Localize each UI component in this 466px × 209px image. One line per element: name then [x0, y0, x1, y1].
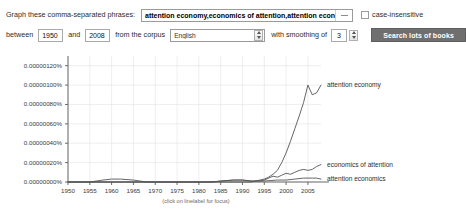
and-label: and [68, 31, 80, 38]
case-insensitive-checkbox[interactable] [361, 11, 369, 19]
series-label[interactable]: attention economy [327, 81, 382, 89]
series-line[interactable] [68, 85, 321, 182]
smoothing-label: with smoothing of [271, 31, 327, 38]
x-axis-tick-label[interactable]: 1990 [236, 187, 250, 194]
y-axis-tick-label: 0.00000040% [24, 139, 63, 146]
x-axis-tick-labels[interactable]: 1950195519601965197019751980198519901995… [61, 187, 315, 194]
corpus-selected-value: English [171, 32, 254, 39]
x-axis-tick-label[interactable]: 1975 [170, 187, 184, 194]
year-start-input[interactable]: 1950 [38, 29, 63, 42]
x-axis-tick-label[interactable]: 1970 [148, 187, 162, 194]
between-label: between [6, 31, 33, 38]
corpus-label: from the corpus [115, 31, 165, 38]
y-axis-tick-label: 0.00000060% [24, 120, 63, 127]
ngram-chart: 0.00000000%0.00000020%0.00000040%0.00000… [0, 48, 409, 209]
y-axis-tick-label: 0.00000080% [24, 100, 63, 107]
chart-series-labels[interactable]: attention economyeconomics of attentiona… [327, 81, 393, 182]
case-insensitive-label: case-insensitive [372, 11, 423, 18]
chart-footnote: (click on linelabel for focus) [162, 198, 230, 204]
ngram-query-form: Graph these comma-separated phrases: att… [0, 0, 409, 48]
y-axis-tick-label: 0.00000020% [24, 159, 63, 166]
smoothing-input[interactable]: 3 [331, 29, 347, 42]
x-axis-tick-label[interactable]: 2005 [301, 187, 315, 194]
chevron-down-icon[interactable] [335, 10, 352, 21]
phrases-label: Graph these comma-separated phrases: [6, 11, 135, 18]
y-axis-tick-label: 0.00000120% [24, 62, 63, 69]
phrases-row: Graph these comma-separated phrases: att… [6, 7, 423, 23]
x-axis-tick-label[interactable]: 1980 [192, 187, 206, 194]
series-label[interactable]: attention economics [327, 175, 386, 182]
chart-series-lines[interactable] [68, 85, 321, 182]
chart-svg[interactable]: 0.00000000%0.00000020%0.00000040%0.00000… [0, 48, 409, 209]
chart-gridlines [68, 56, 321, 182]
options-row: between 1950 and 2008 from the corpus En… [6, 27, 466, 43]
x-axis-tick-label[interactable]: 1950 [61, 187, 75, 194]
x-axis-tick-label[interactable]: 1965 [127, 187, 141, 194]
x-axis-tick-label[interactable]: 2000 [279, 187, 293, 194]
phrases-input[interactable]: attention economy,economics of attention… [142, 10, 335, 21]
x-axis-tick-label[interactable]: 1960 [105, 187, 119, 194]
x-axis-tick-label[interactable]: 1955 [83, 187, 97, 194]
x-axis-tick-label[interactable]: 1995 [257, 187, 271, 194]
search-button[interactable]: Search lots of books [371, 28, 466, 42]
y-axis-tick-labels: 0.00000000%0.00000020%0.00000040%0.00000… [24, 62, 63, 185]
x-axis-tick-label[interactable]: 1985 [214, 187, 228, 194]
series-label[interactable]: economics of attention [327, 161, 393, 168]
series-line[interactable] [68, 178, 321, 182]
y-axis-tick-label: 0.00000100% [24, 81, 63, 88]
y-axis-tick-label: 0.00000000% [24, 178, 63, 185]
year-end-input[interactable]: 2008 [85, 29, 110, 42]
spinner-icon[interactable] [349, 30, 358, 41]
corpus-select[interactable]: English [170, 29, 265, 42]
spinner-icon[interactable] [254, 30, 263, 41]
phrases-input-wrapper[interactable]: attention economy,economics of attention… [141, 9, 353, 22]
chart-axes [65, 56, 329, 185]
